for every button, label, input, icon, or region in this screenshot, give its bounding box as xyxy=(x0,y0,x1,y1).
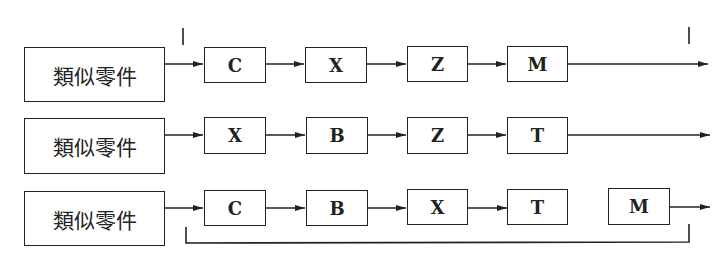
operation-box: Z xyxy=(407,117,468,154)
operation-label: B xyxy=(329,125,344,146)
operation-box: M xyxy=(507,46,568,82)
similar-parts-group-3: 類似零件 xyxy=(24,191,165,246)
group-label: 類似零件 xyxy=(53,60,137,90)
similar-parts-group-2: 類似零件 xyxy=(24,118,165,174)
operation-label: X xyxy=(431,197,445,218)
operation-label: X xyxy=(228,125,242,146)
group-label: 類似零件 xyxy=(53,204,137,234)
process-flow-diagram: 類似零件 C X Z M 類似零件 X B Z T 類似零件 C B X T M xyxy=(0,0,726,267)
operation-label: X xyxy=(329,55,343,76)
operation-box: B xyxy=(306,190,368,226)
operation-box: X xyxy=(204,117,266,154)
operation-box: X xyxy=(407,189,468,225)
operation-label: C xyxy=(228,55,242,76)
operation-box: T xyxy=(507,189,568,225)
operation-label: Z xyxy=(431,54,444,75)
operation-label: T xyxy=(531,125,544,146)
operation-box: T xyxy=(507,117,568,154)
group-label: 類似零件 xyxy=(53,131,137,161)
operation-box: C xyxy=(204,47,266,83)
operation-box: C xyxy=(204,190,266,226)
top-range-ticks xyxy=(183,27,689,45)
operation-label: Z xyxy=(431,125,444,146)
operation-label: C xyxy=(228,198,242,219)
operation-box: B xyxy=(306,117,368,154)
operation-box: M xyxy=(608,188,670,225)
operation-label: T xyxy=(531,197,544,218)
operation-label: M xyxy=(629,196,649,217)
similar-parts-group-1: 類似零件 xyxy=(24,47,165,102)
operation-label: B xyxy=(329,198,344,219)
operation-box: Z xyxy=(407,46,468,82)
bottom-bracket xyxy=(186,224,689,243)
operation-box: X xyxy=(305,47,367,83)
operation-label: M xyxy=(528,54,548,75)
